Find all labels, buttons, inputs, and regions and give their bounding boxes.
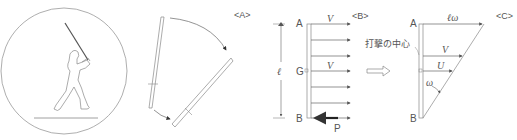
point-a-b: A [296, 18, 303, 29]
point-b-b: B [296, 113, 303, 124]
velocity-center-b: V [327, 60, 335, 71]
panel-b-translation: ℓ A G B V V P <B> [273, 11, 369, 134]
panel-a-label: <A> [234, 10, 251, 20]
length-label: ℓ [277, 66, 281, 77]
diagram-canvas: <A> ℓ A G B V V P <B> [0, 0, 517, 140]
panel-b-label: <B> [352, 11, 369, 21]
bat-rotation-diagram: <A> [148, 10, 251, 127]
center-velocity-label: U [437, 60, 445, 71]
panel-c-rotation: A B ℓω V U ω 打撃の中心 <C> [365, 11, 513, 124]
point-g-b: G [296, 66, 304, 77]
point-a-c: A [410, 18, 417, 29]
center-of-percussion-label: 打撃の中心 [365, 38, 410, 49]
omega-label: ω [426, 77, 433, 88]
velocity-top-b: V [327, 13, 335, 24]
batter-illustration [1, 8, 127, 134]
panel-c-label: <C> [496, 11, 513, 21]
point-b-c: B [410, 113, 417, 124]
percussion-velocity-label: V [442, 44, 450, 55]
force-label: P [334, 123, 341, 134]
transition-arrow [367, 66, 390, 76]
top-velocity-label: ℓω [447, 12, 458, 23]
